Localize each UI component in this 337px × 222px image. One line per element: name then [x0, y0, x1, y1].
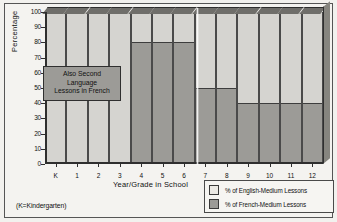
y-tick-label-80: 80 — [19, 39, 41, 46]
bar-column-6 — [173, 12, 194, 164]
bar-column-10 — [259, 12, 280, 164]
bar-column-9 — [237, 12, 258, 164]
bar-segment-french-5 — [153, 42, 172, 164]
y-tick-label-100: 100 — [19, 9, 41, 16]
y-tick-label-30: 30 — [19, 115, 41, 122]
bar-column-8 — [216, 12, 237, 164]
x-tick-mark — [56, 164, 57, 167]
bar-segment-french-8 — [217, 88, 236, 164]
bar-column-11 — [280, 12, 301, 164]
legend-label-french: % of French-Medium Lessons — [225, 201, 306, 208]
x-tick-mark — [270, 164, 271, 167]
y-tick-label-20: 20 — [19, 131, 41, 138]
x-tick-label-10: 10 — [260, 172, 280, 179]
x-tick-label-1: 1 — [67, 172, 87, 179]
figure-frame: Percentage 1009080706050403020100 K12345… — [4, 3, 333, 218]
x-axis-title: Year/Grade in School — [113, 180, 188, 189]
x-tick-mark — [77, 164, 78, 167]
x-tick-mark — [163, 164, 164, 167]
bar-column-4 — [131, 12, 152, 164]
annotation-line-2: Language — [46, 79, 118, 88]
x-tick-label-9: 9 — [238, 172, 258, 179]
x-tick-label-5: 5 — [153, 172, 173, 179]
x-tick-mark — [227, 164, 228, 167]
y-tick-label-10: 10 — [19, 146, 41, 153]
x-tick-label-6: 6 — [174, 172, 194, 179]
y-tick-label-0: 0 — [19, 161, 41, 168]
x-tick-label-12: 12 — [302, 172, 322, 179]
x-tick-label-11: 11 — [281, 172, 301, 179]
x-tick-mark — [141, 164, 142, 167]
x-tick-label-4: 4 — [131, 172, 151, 179]
y-tick-label-40: 40 — [19, 100, 41, 107]
x-tick-mark — [248, 164, 249, 167]
x-tick-label-2: 2 — [88, 172, 108, 179]
bar-column-5 — [152, 12, 173, 164]
x-tick-mark — [120, 164, 121, 167]
y-tick-mark — [41, 164, 45, 165]
bar-segment-french-7 — [196, 88, 215, 164]
x-tick-label-7: 7 — [195, 172, 215, 179]
x-tick-mark — [205, 164, 206, 167]
x-tick-mark — [98, 164, 99, 167]
bar-column-12 — [302, 12, 323, 164]
x-tick-label-k: K — [46, 172, 66, 179]
annotation-line-3: Lessons in French — [46, 87, 118, 96]
y-tick-label-60: 60 — [19, 70, 41, 77]
bar-segment-french-6 — [174, 42, 193, 164]
legend-item-french: % of French-Medium Lessons — [209, 199, 329, 209]
bar-segment-french-11 — [281, 103, 300, 164]
bar-right-face — [323, 1, 330, 164]
x-tick-label-3: 3 — [110, 172, 130, 179]
bar-top-face — [299, 7, 326, 14]
legend-label-english: % of English-Medium Lessons — [225, 187, 307, 194]
annotation-callout: Also Second Language Lessons in French — [43, 66, 121, 101]
chart-legend: % of English-Medium Lessons % of French-… — [204, 180, 334, 213]
x-tick-label-8: 8 — [217, 172, 237, 179]
bar-column-7 — [195, 12, 216, 164]
x-tick-mark — [312, 164, 313, 167]
bar-segment-french-9 — [238, 103, 257, 164]
y-tick-label-70: 70 — [19, 55, 41, 62]
x-axis-line — [45, 162, 323, 164]
x-tick-mark — [184, 164, 185, 167]
x-tick-mark — [291, 164, 292, 167]
footnote: (K=Kindergarten) — [16, 202, 66, 209]
y-axis-title: Percentage — [10, 11, 19, 52]
y-tick-label-50: 50 — [19, 85, 41, 92]
legend-item-english: % of English-Medium Lessons — [209, 185, 329, 195]
bar-segment-french-4 — [132, 42, 151, 164]
annotation-line-1: Also Second — [46, 70, 118, 79]
bar-segment-french-12 — [303, 103, 322, 164]
y-tick-label-90: 90 — [19, 24, 41, 31]
legend-swatch-english-icon — [209, 185, 219, 195]
bar-segment-french-10 — [260, 103, 279, 164]
legend-swatch-french-icon — [209, 199, 219, 209]
